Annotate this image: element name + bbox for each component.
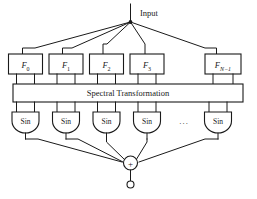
filter-block-f3[interactable]: F3 [130,54,164,84]
input-fanout-wires [23,22,217,54]
summation-label: + [128,159,133,169]
fanout-wire-fn [131,22,217,54]
fanout-wire-f2 [103,22,131,54]
activation-label-sin0: Sin [20,117,30,126]
spectral-transformation-label: Spectral Transformation [87,88,170,98]
filter-block-fn-1[interactable]: FN−1 [205,54,241,84]
activation-block-sin3[interactable]: Sin [134,112,161,139]
activation-label-sin3: Sin [142,117,152,126]
fanin-wire-sin3 [136,139,147,160]
input-label: Input [140,8,159,18]
activation-block-sin1[interactable]: Sin [53,112,80,139]
activation-label-sinN: Sin [213,117,223,126]
activation-label-sin1: Sin [61,117,71,126]
spectral-transformation-block[interactable]: Spectral Transformation [13,84,243,102]
activation-block-sin2[interactable]: Sin [93,112,120,139]
ellipsis-label: ··· [179,119,189,128]
fanin-wire-sin2 [107,139,126,160]
filter-block-f0[interactable]: F0 [9,54,43,84]
activation-label-sin2: Sin [101,117,111,126]
summation-group[interactable]: + [124,156,138,170]
activation-block-sinN[interactable]: Sin [205,112,232,139]
summation-fanin-wires [26,139,219,162]
fanin-wire-sin1 [66,139,123,162]
input-group: Input [129,4,159,24]
bar-to-sin-pins [17,102,228,112]
figure-canvas: Input F0 F1 F2 F3 [0,0,257,199]
filter-block-f2[interactable]: F2 [90,54,124,84]
activation-block-sin0[interactable]: Sin [12,112,39,139]
filter-block-f1[interactable]: F1 [49,54,83,84]
fanin-wire-sinN [139,139,218,162]
output-terminal [127,181,134,188]
fanout-wire-f0 [23,22,131,54]
output-group [127,170,134,188]
